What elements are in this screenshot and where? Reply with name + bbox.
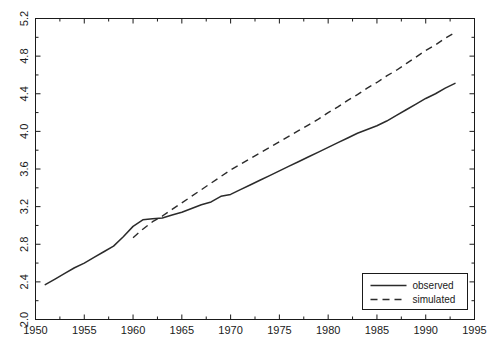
x-tick-label: 1955: [72, 324, 96, 336]
legend-label-observed: observed: [413, 280, 454, 291]
x-tick-label: 1975: [267, 324, 291, 336]
y-axis-tick-labels: 2.02.42.83.23.64.04.44.85.2: [18, 11, 30, 327]
x-tick-label: 1980: [316, 324, 340, 336]
x-tick-label: 1985: [365, 324, 389, 336]
x-tick-label: 1990: [413, 324, 437, 336]
line-chart-canvas: 2.02.42.83.23.64.04.44.85.2 195019551960…: [0, 0, 491, 352]
x-tick-label: 1965: [170, 324, 194, 336]
x-tick-label: 1995: [462, 324, 486, 336]
legend-label-simulated: simulated: [413, 294, 456, 305]
x-tick-label: 1960: [121, 324, 145, 336]
y-tick-label: 2.4: [18, 274, 30, 289]
y-tick-label: 2.8: [18, 237, 30, 252]
y-tick-label: 4.4: [18, 86, 30, 101]
y-tick-label: 4.0: [18, 124, 30, 139]
x-tick-label: 1970: [218, 324, 242, 336]
chart-legend: observedsimulated: [363, 274, 468, 310]
y-tick-label: 5.2: [18, 11, 30, 26]
y-tick-label: 4.8: [18, 48, 30, 63]
chart-figure: 2.02.42.83.23.64.04.44.85.2 195019551960…: [0, 0, 491, 352]
y-tick-label: 3.6: [18, 161, 30, 176]
x-tick-label: 1950: [23, 324, 47, 336]
y-tick-label: 3.2: [18, 199, 30, 214]
